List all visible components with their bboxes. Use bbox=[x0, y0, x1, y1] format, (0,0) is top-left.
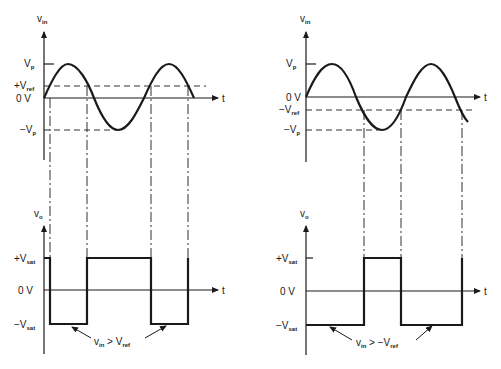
left-neg-vp-label: −Vp bbox=[20, 124, 37, 136]
comparator-waveform-diagram: vin Vp +Vref 0 V −Vp t vo +Vsat 0 V −Vsa… bbox=[0, 0, 501, 369]
left-output-graph: vo +Vsat 0 V −Vsat t vin > Vref bbox=[14, 208, 225, 354]
left-out-zero-label: 0 V bbox=[18, 285, 33, 296]
right-guide-lines bbox=[364, 110, 462, 258]
right-annotation: vin > −Vref bbox=[356, 337, 399, 349]
right-pos-sat-label: +Vsat bbox=[276, 253, 297, 265]
left-out-t-label: t bbox=[222, 285, 225, 296]
left-vin-label: vin bbox=[37, 13, 48, 25]
left-t-label: t bbox=[222, 93, 225, 104]
right-annotation-arrow-2 bbox=[416, 326, 432, 340]
right-neg-vp-label: −Vp bbox=[284, 124, 301, 136]
left-vp-label: Vp bbox=[24, 58, 35, 70]
left-sine-wave bbox=[44, 64, 194, 130]
left-square-wave bbox=[44, 258, 188, 324]
left-annotation-arrow-2 bbox=[145, 326, 166, 338]
right-out-zero-label: 0 V bbox=[280, 286, 295, 297]
left-zero-label: 0 V bbox=[16, 93, 31, 104]
right-vin-label: vin bbox=[300, 13, 311, 25]
right-output-graph: vo +Vsat 0 V −Vsat t vin > −Vref bbox=[276, 208, 487, 355]
left-guide-lines bbox=[50, 86, 188, 258]
left-vo-label: vo bbox=[34, 208, 43, 220]
left-annotation-arrow-1 bbox=[72, 327, 91, 338]
left-pos-sat-label: +Vsat bbox=[14, 253, 35, 265]
right-t-label: t bbox=[484, 92, 487, 103]
right-out-t-label: t bbox=[484, 286, 487, 297]
right-annotation-arrow-1 bbox=[330, 327, 352, 340]
right-vo-label: vo bbox=[300, 208, 309, 220]
right-neg-sat-label: −Vsat bbox=[276, 320, 297, 332]
right-vref-label: −Vref bbox=[279, 104, 300, 116]
left-vref-label: +Vref bbox=[14, 80, 35, 92]
right-zero-label: 0 V bbox=[286, 92, 301, 103]
right-vp-label: Vp bbox=[286, 58, 297, 70]
left-neg-sat-label: −Vsat bbox=[14, 319, 35, 331]
left-annotation: vin > Vref bbox=[94, 336, 131, 348]
right-input-graph: vin Vp 0 V −Vref −Vp t bbox=[279, 13, 487, 162]
left-input-graph: vin Vp +Vref 0 V −Vp t bbox=[14, 13, 225, 160]
